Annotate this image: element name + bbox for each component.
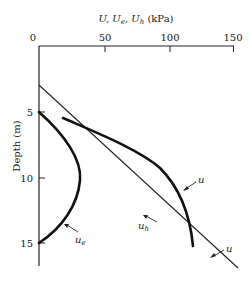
u-label-1: u <box>198 174 204 185</box>
x-tick-label-100: 100 <box>160 32 179 43</box>
arrowhead-icon <box>210 253 216 258</box>
y-axis-title: Depth (m) <box>11 120 22 171</box>
y-tick-label-15: 15 <box>20 238 33 249</box>
u-label-2: u <box>226 243 232 254</box>
y-tick-label-10: 10 <box>20 173 33 184</box>
u-curve <box>63 118 193 246</box>
y-tick-label-5: 5 <box>27 107 33 118</box>
uh-label: uh <box>138 220 149 233</box>
uh-label-arrow <box>146 216 157 222</box>
x-tick-label-0: 0 <box>30 32 36 43</box>
x-tick-label-150: 150 <box>223 32 242 43</box>
x-tick-label-50: 50 <box>99 32 112 43</box>
ue-label: ue <box>75 234 86 247</box>
ue-curve <box>39 112 80 243</box>
x-axis-title: U, Ue, Uh (kPa) <box>98 13 173 26</box>
pore-pressure-depth-chart: U, Ue, Uh (kPa) 0 50 100 150 5 10 15 Dep… <box>0 0 251 287</box>
ue-label-arrow <box>67 225 78 232</box>
uh-line <box>39 85 238 268</box>
